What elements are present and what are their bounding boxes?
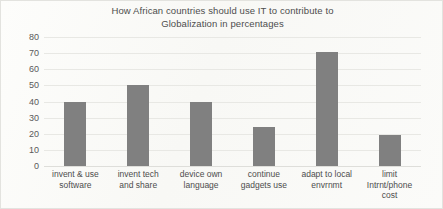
bar-slot <box>107 37 170 166</box>
x-axis-label-line: invent & use <box>45 169 106 180</box>
x-axis-label-line: and share <box>108 180 169 191</box>
x-axis-label: invent techand share <box>107 169 170 201</box>
x-axis-label: invent & usesoftware <box>44 169 107 201</box>
y-axis-tick-label: 0 <box>34 161 39 171</box>
plot-area: 80706050403020100 <box>44 37 421 166</box>
x-axis-label-line: gadgets use <box>233 180 294 191</box>
y-axis-tick-label: 80 <box>29 32 39 42</box>
bar-slot <box>44 37 107 166</box>
y-axis-tick-label: 30 <box>29 113 39 123</box>
x-axis-label-line: cost <box>359 190 420 201</box>
bar <box>64 102 86 167</box>
x-axis-labels: invent & usesoftwareinvent techand share… <box>44 169 421 201</box>
chart-title-line-2: Globalization in percentages <box>31 17 414 30</box>
y-axis-tick-label: 70 <box>29 48 39 58</box>
bar <box>127 85 149 166</box>
chart-frame: How African countries should use IT to c… <box>0 0 443 209</box>
y-axis-tick-label: 20 <box>29 129 39 139</box>
bar-slot <box>232 37 295 166</box>
x-axis-label: device ownlanguage <box>170 169 233 201</box>
bar-slot <box>170 37 233 166</box>
bar <box>379 135 401 166</box>
x-axis-label-line: software <box>45 180 106 191</box>
x-axis-label-line: invent tech <box>108 169 169 180</box>
x-axis-label: adapt to localenvrnmt <box>295 169 358 201</box>
x-axis-label-line: language <box>171 180 232 191</box>
bar <box>190 102 212 167</box>
axis-baseline <box>44 166 421 167</box>
bar <box>253 127 275 166</box>
y-axis-tick-label: 40 <box>29 97 39 107</box>
x-axis-label-line: limit <box>359 169 420 180</box>
bar <box>316 52 338 166</box>
x-axis-label: continuegadgets use <box>232 169 295 201</box>
y-axis-tick-label: 60 <box>29 64 39 74</box>
bar-slot <box>358 37 421 166</box>
x-axis-label-line: envrnmt <box>296 180 357 191</box>
bar-slot <box>295 37 358 166</box>
y-axis-tick-label: 10 <box>29 145 39 155</box>
y-axis-tick-label: 50 <box>29 80 39 90</box>
x-axis-label-line: device own <box>171 169 232 180</box>
chart-title-line-1: How African countries should use IT to c… <box>31 4 414 17</box>
x-axis-label-line: continue <box>233 169 294 180</box>
chart-title: How African countries should use IT to c… <box>31 4 414 30</box>
x-axis-label: limitIntrnt/phonecost <box>358 169 421 201</box>
bar-series <box>44 37 421 166</box>
x-axis-label-line: Intrnt/phone <box>359 180 420 191</box>
x-axis-label-line: adapt to local <box>296 169 357 180</box>
